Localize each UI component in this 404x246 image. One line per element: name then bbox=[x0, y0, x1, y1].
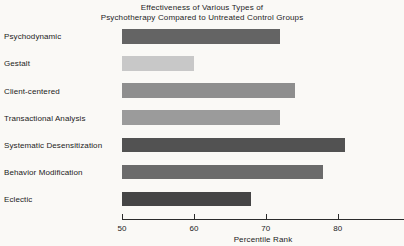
category-label-gestalt: Gestalt bbox=[4, 59, 30, 68]
chart-title: Effectiveness of Various Types of Psycho… bbox=[0, 3, 404, 23]
category-label-eclectic: Eclectic bbox=[4, 195, 32, 204]
chart-title-line1: Effectiveness of Various Types of bbox=[0, 3, 404, 13]
category-label-psychodynamic: Psychodynamic bbox=[4, 32, 61, 41]
bar-behavior-modification bbox=[122, 165, 323, 180]
category-label-client-centered: Client-centered bbox=[4, 86, 60, 95]
category-label-behavior-modification: Behavior Modification bbox=[4, 168, 83, 177]
x-tick-label-50: 50 bbox=[118, 224, 127, 233]
category-label-transactional-analysis: Transactional Analysis bbox=[4, 113, 86, 122]
x-tick-label-80: 80 bbox=[333, 224, 342, 233]
bar-eclectic bbox=[122, 192, 251, 207]
chart-figure: Effectiveness of Various Types of Psycho… bbox=[0, 0, 404, 246]
x-axis-line bbox=[122, 219, 404, 220]
category-label-systematic-desensitization: Systematic Desensitization bbox=[4, 140, 102, 149]
x-tick-60 bbox=[194, 214, 195, 219]
x-tick-label-70: 70 bbox=[261, 224, 270, 233]
bar-transactional-analysis bbox=[122, 110, 280, 125]
x-tick-50 bbox=[122, 214, 123, 219]
x-tick-label-60: 60 bbox=[189, 224, 198, 233]
x-tick-70 bbox=[266, 214, 267, 219]
bar-client-centered bbox=[122, 83, 295, 98]
x-tick-80 bbox=[338, 214, 339, 219]
bar-psychodynamic bbox=[122, 29, 280, 44]
x-axis-label: Percentile Rank bbox=[122, 235, 404, 244]
bar-gestalt bbox=[122, 56, 194, 71]
bar-systematic-desensitization bbox=[122, 138, 345, 153]
chart-title-line2: Psychotherapy Compared to Untreated Cont… bbox=[0, 13, 404, 23]
